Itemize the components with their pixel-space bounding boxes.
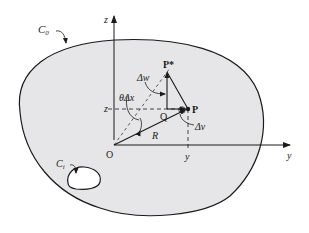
z-coord-label: z [103,103,108,114]
point-p [186,107,190,111]
theta-delta-x-label: θΔx [119,92,135,103]
r-label: R [151,130,158,141]
y-axis-label: y [286,150,292,161]
origin-label: O [106,149,113,160]
delta-v-label: Δv [194,121,206,132]
c0-label: C0 [38,23,49,37]
delta-w-label: Δw [136,72,150,83]
q-label: Q [160,111,168,122]
c0-leader [56,31,66,43]
y-coord-label: y [184,151,190,162]
diagram: C0 Ci z y O P P* Q R Δw Δv θΔx z y [0,0,309,233]
pstar-label: P* [163,59,174,70]
p-label: P [192,104,198,115]
inner-boundary-ci [68,167,101,189]
z-axis-label: z [103,14,108,25]
